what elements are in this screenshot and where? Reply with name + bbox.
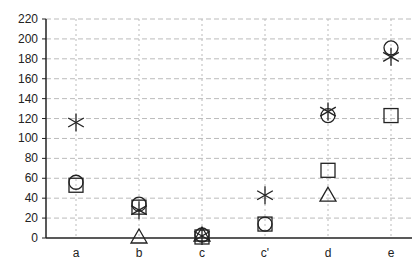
y-tick-label: 180 — [18, 52, 38, 66]
series-star — [68, 48, 399, 245]
x-tick-label: a — [73, 246, 80, 260]
y-tick-label: 220 — [18, 12, 38, 26]
series-triangle — [131, 187, 336, 243]
y-tick-label: 60 — [25, 171, 39, 185]
y-tick-label: 100 — [18, 131, 38, 145]
y-tick-label: 80 — [25, 151, 39, 165]
x-tick-label: d — [325, 246, 332, 260]
scatter-chart: 020406080100120140160180200220abcc'de — [0, 0, 419, 274]
x-tick-label: b — [136, 246, 143, 260]
x-tick-label: e — [388, 246, 395, 260]
x-tick-label: c' — [261, 246, 269, 260]
y-tick-label: 120 — [18, 112, 38, 126]
y-tick-label: 20 — [25, 211, 39, 225]
y-tick-label: 200 — [18, 32, 38, 46]
y-tick-label: 40 — [25, 191, 39, 205]
series-square — [69, 109, 398, 244]
y-tick-label: 140 — [18, 92, 38, 106]
y-tick-label: 0 — [31, 231, 38, 245]
y-tick-label: 160 — [18, 72, 38, 86]
grid — [46, 19, 412, 238]
series-circle — [69, 41, 398, 242]
x-tick-label: c — [199, 246, 205, 260]
